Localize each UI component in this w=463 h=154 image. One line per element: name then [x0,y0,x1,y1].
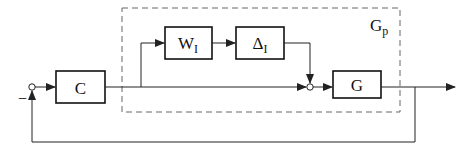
block-g-label: G [351,76,363,95]
summing-junction-2 [307,84,313,90]
minus-sign: − [18,90,27,107]
gp-label: Gp [370,16,388,38]
wire-branch-to-wi [141,43,164,87]
summing-junction-1 [29,84,35,90]
block-diagram: Gp − C WI ΔI G [0,0,463,154]
wire-delta-to-sum2 [284,43,310,83]
block-c-label: C [75,79,86,98]
